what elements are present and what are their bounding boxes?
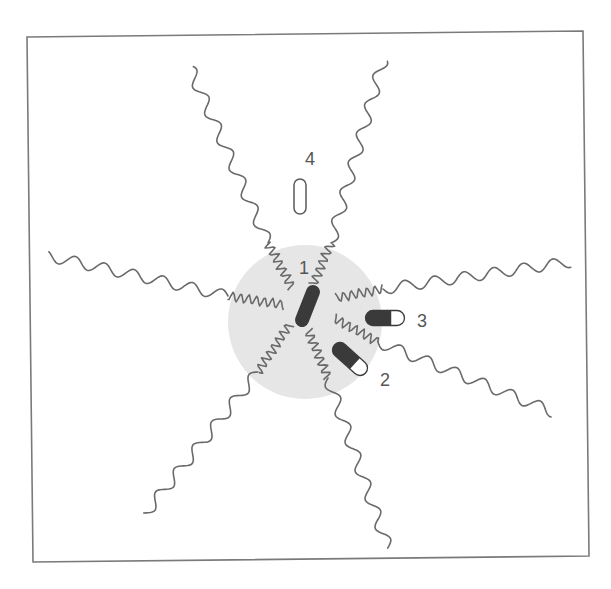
micelle-diagram: 1 2 3 4 bbox=[0, 0, 611, 589]
capsule-3 bbox=[366, 311, 405, 326]
label-3: 3 bbox=[417, 311, 427, 331]
label-1: 1 bbox=[299, 258, 309, 278]
label-2: 2 bbox=[380, 370, 390, 390]
capsule-4 bbox=[294, 179, 306, 214]
label-4: 4 bbox=[305, 149, 315, 169]
